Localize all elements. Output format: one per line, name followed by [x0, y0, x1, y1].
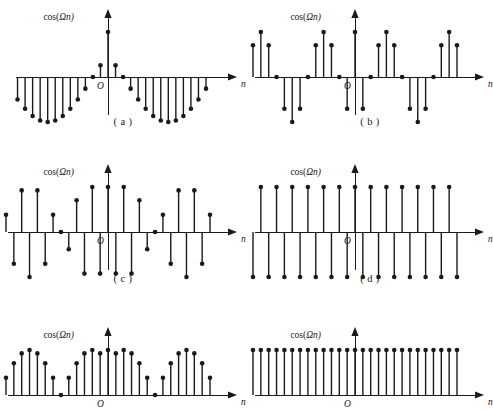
- stem-marker: [137, 198, 142, 203]
- stem-marker: [136, 97, 141, 102]
- stem-marker: [439, 348, 444, 353]
- stem-marker: [153, 393, 158, 398]
- stem-marker: [368, 75, 373, 80]
- stem-marker: [447, 185, 452, 190]
- stem-marker: [23, 107, 28, 112]
- stem-marker: [251, 348, 256, 353]
- y-axis-label: cos(Ωn): [290, 167, 321, 178]
- stem-marker: [306, 348, 311, 353]
- y-axis-label: cos(Ωn): [43, 330, 74, 341]
- stem-marker: [91, 75, 96, 80]
- stem-marker: [415, 185, 420, 190]
- stem-marker: [59, 230, 64, 235]
- stem-plot-panel-b: cos(Ωn)nO( b ): [247, 0, 493, 145]
- stem-marker: [74, 361, 79, 366]
- stem-marker: [83, 86, 88, 91]
- stem-marker: [392, 348, 397, 353]
- stem-marker: [439, 43, 444, 48]
- stem-marker: [368, 348, 373, 353]
- stem-marker: [208, 212, 213, 217]
- stem-marker: [266, 43, 271, 48]
- stem-marker: [298, 348, 303, 353]
- stem-series: [251, 348, 460, 395]
- stem-plot-panel-f: cos(Ωn)nO: [247, 318, 493, 411]
- panel-caption-c: ( c ): [0, 273, 246, 284]
- stem-marker: [90, 348, 95, 353]
- stem-marker: [259, 30, 264, 35]
- stem-marker: [145, 375, 150, 380]
- stem-marker: [455, 348, 460, 353]
- panel-caption-d: ( d ): [247, 273, 493, 284]
- x-axis-label: n: [488, 234, 493, 244]
- stem-marker: [76, 97, 81, 102]
- stem-marker: [35, 351, 40, 356]
- x-axis-label: n: [488, 397, 493, 407]
- stem-marker: [384, 185, 389, 190]
- stem-marker: [329, 348, 334, 353]
- stem-marker: [259, 348, 264, 353]
- stem-marker: [121, 75, 126, 80]
- x-axis-label: n: [241, 397, 246, 407]
- stem-marker: [447, 30, 452, 35]
- stem-marker: [192, 351, 197, 356]
- stem-marker: [98, 351, 103, 356]
- stem-marker: [27, 348, 32, 353]
- x-axis: [16, 73, 237, 80]
- y-axis-label: cos(Ωn): [290, 330, 321, 341]
- stem-marker: [392, 43, 397, 48]
- panel-caption-b: ( b ): [247, 116, 493, 127]
- stem-marker: [4, 375, 9, 380]
- stem-marker: [423, 348, 428, 353]
- stem-marker: [337, 185, 342, 190]
- stem-marker: [282, 348, 287, 353]
- stem-marker: [353, 185, 358, 190]
- origin-label: O: [344, 81, 351, 91]
- panel-caption-a: ( a ): [0, 116, 246, 127]
- stem-marker: [106, 30, 111, 35]
- stem-plot-panel-e: cos(Ωn)nO: [0, 318, 246, 411]
- stem-marker: [368, 185, 373, 190]
- stem-marker: [4, 212, 9, 217]
- stem-marker: [82, 351, 87, 356]
- stem-marker: [129, 351, 134, 356]
- stem-marker: [145, 247, 150, 252]
- stem-marker: [376, 43, 381, 48]
- stem-marker: [321, 185, 326, 190]
- y-axis-label: cos(Ωn): [43, 12, 74, 23]
- stem-marker: [313, 348, 318, 353]
- stem-marker: [400, 348, 405, 353]
- stem-marker: [196, 97, 201, 102]
- x-axis-label: n: [241, 79, 246, 89]
- x-axis-label: n: [488, 79, 493, 89]
- stem-marker: [35, 188, 40, 193]
- stem-marker: [59, 393, 64, 398]
- stem-series: [4, 348, 213, 398]
- stem-marker: [161, 212, 166, 217]
- stem-marker: [121, 185, 126, 190]
- stem-marker: [200, 262, 205, 267]
- stem-marker: [12, 262, 17, 267]
- origin-label: O: [97, 81, 104, 91]
- stem-marker: [19, 188, 24, 193]
- stem-marker: [43, 361, 48, 366]
- stem-marker: [361, 348, 366, 353]
- stem-marker: [204, 86, 209, 91]
- stem-marker: [321, 348, 326, 353]
- stem-marker: [74, 198, 79, 203]
- stem-marker: [345, 348, 350, 353]
- x-axis-label: n: [241, 234, 246, 244]
- stem-plot-panel-c: cos(Ωn)nO( c ): [0, 155, 246, 300]
- stem-marker: [189, 107, 194, 112]
- stem-marker: [337, 348, 342, 353]
- stem-marker: [361, 107, 366, 112]
- stem-marker: [251, 43, 256, 48]
- stem-marker: [376, 348, 381, 353]
- stem-marker: [274, 185, 279, 190]
- stem-marker: [90, 185, 95, 190]
- stem-marker: [298, 107, 303, 112]
- stem-marker: [423, 107, 428, 112]
- stem-marker: [121, 348, 126, 353]
- stem-plot-panel-a: cos(Ωn)nO( a ): [0, 0, 246, 145]
- stem-marker: [15, 97, 20, 102]
